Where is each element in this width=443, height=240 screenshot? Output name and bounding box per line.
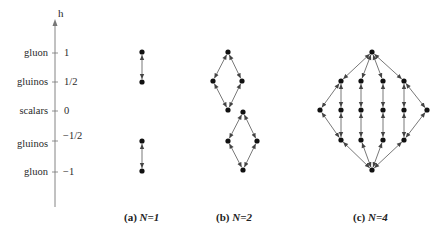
edge-b (244, 115, 255, 139)
state-node-b (240, 109, 245, 114)
particle-label: scalars (19, 105, 48, 117)
edge-c (343, 142, 370, 168)
helicity-value: −1/2 (63, 130, 82, 142)
edge-b (229, 115, 241, 139)
helicity-axis (52, 19, 58, 207)
edge-c (322, 112, 340, 137)
state-node-c (401, 137, 406, 142)
state-node-b (239, 78, 244, 83)
state-node-a (139, 168, 144, 173)
state-node-c (380, 107, 385, 112)
caption-b: (b) N=2 (216, 211, 252, 223)
state-node-b (240, 167, 245, 172)
state-node-c (338, 78, 343, 83)
state-node-c (358, 78, 363, 83)
state-node-a (139, 138, 144, 143)
edge-c (373, 55, 382, 78)
state-node-b (210, 78, 215, 83)
caption-prefix: (b) (216, 211, 232, 223)
particle-label: gluinos (17, 138, 48, 150)
state-node-a (139, 49, 144, 54)
helicity-value: 0 (64, 105, 69, 117)
diagram-canvas (0, 0, 443, 240)
state-node-c (401, 78, 406, 83)
caption-prefix: (c) (353, 211, 368, 223)
edge-c (406, 83, 425, 107)
caption-math: N=2 (232, 211, 252, 223)
state-node-c (380, 78, 385, 83)
edge-c (343, 54, 370, 79)
edge-b (229, 144, 241, 168)
state-node-c (358, 107, 363, 112)
edge-c (373, 143, 382, 167)
caption-a: (a) N=1 (124, 211, 159, 223)
edge-c (374, 54, 402, 79)
helicity-value: 1 (64, 47, 69, 59)
particle-label: gluon (24, 166, 48, 178)
state-node-c (369, 49, 374, 54)
state-node-c (358, 137, 363, 142)
nodes (139, 49, 429, 173)
edge-c (406, 112, 425, 137)
edge-b (214, 84, 226, 108)
edge-c (362, 55, 371, 78)
state-node-a (139, 79, 144, 84)
state-node-c (401, 107, 406, 112)
particle-label: gluinos (17, 76, 48, 88)
state-node-c (338, 107, 343, 112)
edge-b (244, 144, 255, 168)
edge-c (374, 142, 402, 168)
edge-c (322, 83, 339, 107)
state-node-b (254, 138, 259, 143)
state-node-b (225, 138, 230, 143)
state-node-c (380, 137, 385, 142)
supermultiplet-diagram: h gluon 1 gluinos 1/2 scalars 0 gluinos … (0, 0, 443, 240)
caption-c: (c) N=4 (353, 211, 388, 223)
helicity-value: −1 (63, 166, 74, 178)
state-node-c (338, 137, 343, 142)
particle-label: gluon (24, 47, 48, 59)
state-node-c (369, 167, 374, 172)
caption-math: N=1 (140, 211, 160, 223)
caption-prefix: (a) (124, 211, 140, 223)
state-node-b (225, 107, 230, 112)
caption-math: N=4 (368, 211, 388, 223)
axis-label: h (58, 7, 64, 19)
edge-c (362, 143, 371, 167)
edge-b (229, 84, 240, 108)
state-node-c (424, 107, 429, 112)
state-node-c (317, 107, 322, 112)
helicity-value: 1/2 (64, 76, 77, 88)
state-node-b (225, 49, 230, 54)
edge-b (214, 55, 226, 79)
axis-arrow-icon (53, 19, 58, 26)
edge-b (229, 55, 240, 79)
